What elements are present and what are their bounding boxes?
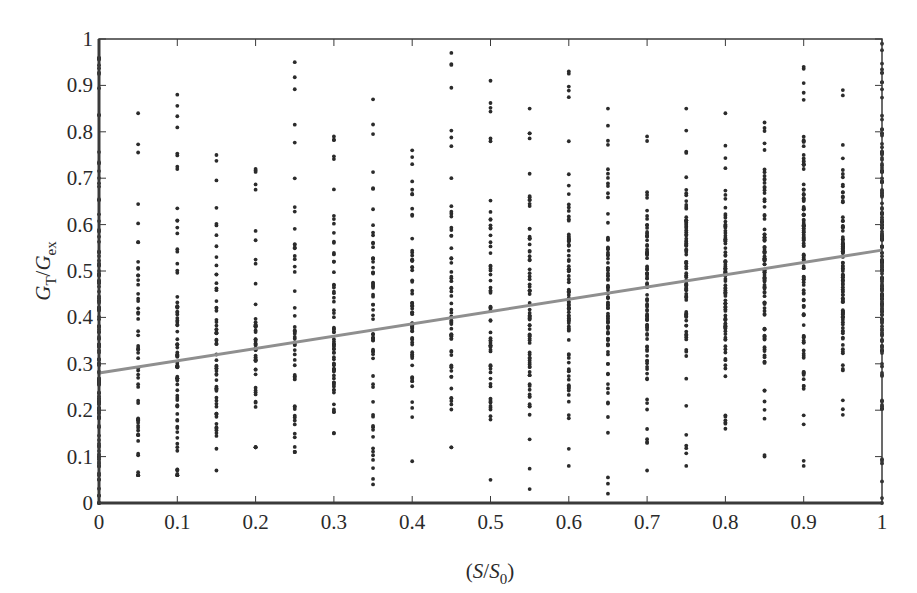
data-point	[684, 324, 688, 328]
data-point	[410, 188, 414, 192]
data-point	[567, 338, 571, 342]
data-point	[215, 447, 219, 451]
data-point	[410, 192, 414, 196]
data-point	[684, 232, 688, 236]
data-point	[489, 106, 493, 110]
y-tick-label: 0.3	[67, 352, 93, 376]
x-tick-label: 0.3	[321, 510, 347, 534]
data-point	[136, 299, 140, 303]
data-point	[684, 464, 688, 468]
data-point	[567, 72, 571, 76]
data-point	[371, 257, 375, 261]
data-point	[763, 236, 767, 240]
data-point	[175, 226, 179, 230]
data-point	[136, 439, 140, 443]
data-point	[724, 418, 728, 422]
data-point	[606, 143, 610, 147]
data-point	[175, 262, 179, 266]
data-point	[410, 307, 414, 311]
data-point	[606, 391, 610, 395]
data-point	[254, 282, 258, 286]
data-point	[254, 338, 258, 342]
data-point	[410, 258, 414, 262]
data-point	[567, 393, 571, 397]
data-point	[136, 202, 140, 206]
data-point	[802, 377, 806, 381]
data-point	[841, 282, 845, 286]
data-point	[528, 227, 532, 231]
data-point	[332, 410, 336, 414]
data-point	[254, 188, 258, 192]
data-point	[449, 176, 453, 180]
data-point	[528, 413, 532, 417]
data-point	[724, 357, 728, 361]
data-point	[841, 199, 845, 203]
data-point	[763, 205, 767, 209]
data-point	[332, 355, 336, 359]
data-point	[606, 245, 610, 249]
data-point	[215, 396, 219, 400]
data-point	[724, 197, 728, 201]
data-point	[293, 246, 297, 250]
data-point	[371, 356, 375, 360]
data-point	[332, 388, 336, 392]
data-point	[841, 196, 845, 200]
data-point	[175, 330, 179, 334]
data-point	[763, 254, 767, 258]
data-point	[606, 107, 610, 111]
x-tick-label: 0	[94, 510, 105, 534]
data-point	[332, 260, 336, 264]
data-point	[724, 253, 728, 257]
data-point	[136, 373, 140, 377]
data-point	[645, 243, 649, 247]
data-point	[371, 483, 375, 487]
data-point	[293, 60, 297, 64]
data-point	[606, 296, 610, 300]
data-point	[567, 319, 571, 323]
data-point	[645, 297, 649, 301]
data-point	[567, 361, 571, 365]
data-point	[293, 314, 297, 318]
data-point	[567, 249, 571, 253]
data-point	[489, 318, 493, 322]
y-tick-label: 0.5	[67, 259, 93, 283]
data-point	[528, 308, 532, 312]
data-point	[645, 253, 649, 257]
data-point	[449, 51, 453, 55]
data-point	[293, 407, 297, 411]
data-point	[215, 233, 219, 237]
data-point	[606, 261, 610, 265]
data-point	[684, 215, 688, 219]
data-point	[684, 203, 688, 207]
y-tick-label: 0.8	[67, 120, 93, 144]
data-point	[293, 123, 297, 127]
data-point	[606, 191, 610, 195]
data-point	[371, 450, 375, 454]
data-point	[175, 323, 179, 327]
data-point	[489, 339, 493, 343]
data-point	[802, 288, 806, 292]
data-point	[567, 374, 571, 378]
data-point	[841, 273, 845, 277]
data-point	[293, 227, 297, 231]
data-point	[763, 388, 767, 392]
data-point	[215, 422, 219, 426]
data-point	[645, 238, 649, 242]
data-point	[841, 88, 845, 92]
data-point	[645, 271, 649, 275]
data-point	[449, 353, 453, 357]
data-point	[802, 182, 806, 186]
data-point	[802, 304, 806, 308]
data-point	[293, 450, 297, 454]
data-point	[841, 191, 845, 195]
data-point	[802, 67, 806, 71]
data-point	[802, 213, 806, 217]
data-point	[410, 329, 414, 333]
data-point	[724, 286, 728, 290]
data-point	[802, 459, 806, 463]
data-point	[449, 302, 453, 306]
data-point	[802, 193, 806, 197]
data-point	[802, 313, 806, 317]
data-point	[763, 306, 767, 310]
data-point	[254, 170, 258, 174]
